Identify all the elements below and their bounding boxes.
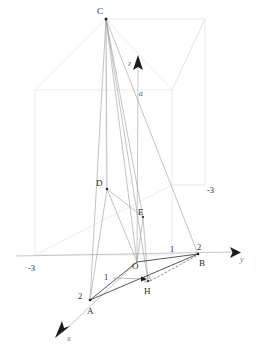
geometry-figure: y z x [0, 0, 258, 353]
dot-H [147, 280, 149, 282]
dot-D [106, 188, 108, 190]
label-height-a: a [139, 89, 143, 98]
y-axis-line [16, 252, 232, 256]
label-point-O: O [132, 261, 139, 271]
tick-y-negative-three: -3 [28, 263, 35, 273]
label-point-C: C [97, 6, 103, 16]
measure-line [113, 278, 143, 279]
edge-D-A [90, 189, 107, 300]
label-point-E: E [138, 207, 144, 217]
x-axis-line [62, 262, 137, 333]
y-axis-label: y [239, 255, 244, 264]
edge-C-O [106, 19, 137, 262]
tick-y-one: 1 [170, 244, 174, 254]
tick-labels: -3 -3 1 2 1 2 [28, 185, 214, 301]
x-axis-label: x [66, 334, 71, 343]
dot-A [89, 299, 92, 302]
box-diagonal-front-lower [35, 185, 172, 255]
z-axis-label: z [127, 59, 132, 68]
tick-x-two: 2 [78, 291, 82, 301]
tick-x-negative-three: -3 [207, 185, 214, 195]
label-point-B: B [199, 258, 205, 268]
tick-y-two: 2 [197, 242, 201, 252]
z-axis-line [137, 62, 138, 262]
edge-C-B [106, 19, 198, 254]
axes-group: y z x [16, 55, 244, 343]
edge-C-H [106, 19, 148, 281]
box-front-face [35, 90, 172, 255]
edge-E-H [143, 217, 148, 281]
edge-C-A [90, 19, 106, 300]
dot-C [105, 18, 108, 21]
tick-x-one: 1 [104, 272, 108, 282]
edge-A-O [90, 262, 137, 300]
dot-B [197, 253, 200, 256]
box-diagonal-top-right [172, 19, 205, 90]
label-point-H: H [144, 286, 151, 296]
label-point-D: D [96, 178, 103, 188]
label-point-A: A [87, 306, 94, 316]
